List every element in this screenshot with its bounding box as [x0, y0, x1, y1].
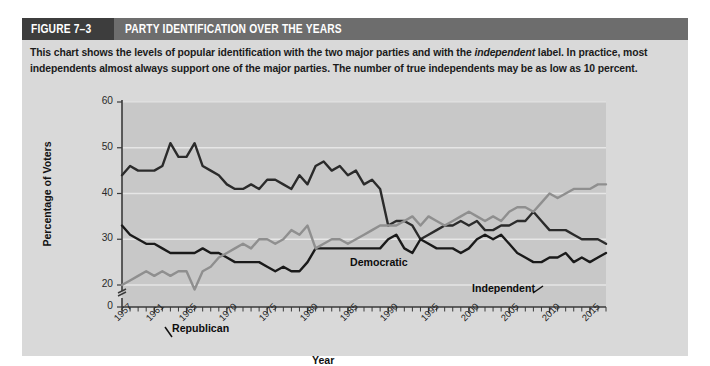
plot-background: [122, 102, 606, 307]
y-tick-label: 40: [89, 187, 113, 198]
caption-text-italic: independent: [474, 47, 535, 58]
y-tick-label: 0: [89, 300, 113, 311]
series-label-republican: Republican: [172, 322, 229, 334]
series-label-democratic: Democratic: [350, 256, 408, 268]
y-tick-label: 30: [89, 232, 113, 243]
y-tick-label: 20: [89, 278, 113, 289]
figure-caption: This chart shows the levels of popular i…: [30, 45, 680, 76]
y-tick-label: 50: [89, 141, 113, 152]
figure-panel: FIGURE 7–3 PARTY IDENTIFICATION OVER THE…: [22, 18, 688, 356]
caption-text-part1: This chart shows the levels of popular i…: [30, 47, 474, 58]
y-tick-label: 60: [89, 95, 113, 106]
x-axis-title: Year: [312, 354, 334, 366]
y-axis-title: Percentage of Voters: [41, 134, 53, 254]
republican-label-leader: [165, 327, 172, 337]
figure-number: FIGURE 7–3: [31, 22, 91, 36]
figure-title: PARTY IDENTIFICATION OVER THE YEARS: [125, 22, 342, 36]
chart-container: Percentage of Voters Year 02030405060195…: [22, 96, 688, 356]
series-label-independent: Independent: [472, 282, 535, 294]
figure-number-box: FIGURE 7–3: [22, 18, 114, 40]
figure-header-bar: FIGURE 7–3 PARTY IDENTIFICATION OVER THE…: [22, 18, 688, 40]
